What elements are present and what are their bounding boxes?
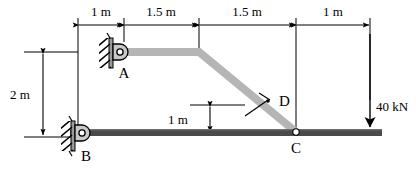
load-label-40kN: 40 kN xyxy=(376,99,409,114)
support-A-ticks xyxy=(107,33,110,38)
section-cut-D-point xyxy=(266,99,270,103)
dim-label-1m-vertical: 1 m xyxy=(168,112,188,127)
joint-label-B: B xyxy=(81,148,91,164)
dim-label-1p5m-first: 1.5 m xyxy=(146,4,176,19)
extension-lines xyxy=(24,18,370,140)
dim-label-1m-left: 1 m xyxy=(91,4,111,19)
joint-C-pin xyxy=(293,129,299,135)
pin-joint-C xyxy=(293,129,299,135)
dim-label-2m: 2 m xyxy=(10,87,30,102)
support-B-pin-hole xyxy=(79,130,85,136)
structural-diagram: 1 m 1.5 m 1.5 m 1 m 2 m 1 m xyxy=(0,0,416,169)
joint-label-C: C xyxy=(291,140,301,156)
bottom-beam xyxy=(70,129,382,136)
support-A-pin-hole xyxy=(117,49,123,55)
joint-label-A: A xyxy=(119,65,130,81)
dim-label-1p5m-second: 1.5 m xyxy=(232,4,262,19)
joint-label-D: D xyxy=(279,93,290,109)
dim-label-1m-right: 1 m xyxy=(323,4,343,19)
bottom-beam-highlight xyxy=(70,129,382,130)
